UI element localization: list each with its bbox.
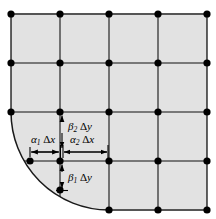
label-beta1-delta-y: β1 Δy [67,171,92,185]
grid-node [105,108,112,115]
grid-node [56,10,63,17]
grid-node [203,206,210,213]
label-beta2-delta-y: β2 Δy [67,120,92,134]
grid-diagram: α1 Δx α2 Δx β2 Δy β1 Δy [0,0,216,219]
grid-node [203,59,210,66]
figure-container: α1 Δx α2 Δx β2 Δy β1 Δy [0,0,216,219]
grid-node [154,206,161,213]
grid-node [56,59,63,66]
label-alpha1-delta-x: α1 Δx [31,133,55,147]
grid-node [105,206,112,213]
grid-node [7,108,14,115]
beta2-delta: Δ [80,120,87,132]
label-alpha2-delta-x: α2 Δx [70,133,94,147]
grid-node [154,10,161,17]
grid-node [154,59,161,66]
alpha1-delta: Δ [43,133,50,145]
grid-node [105,10,112,17]
grid-node [203,108,210,115]
grid-node [154,157,161,164]
alpha1-variable: x [49,133,55,145]
grid-node [105,157,112,164]
beta1-delta: Δ [80,171,87,183]
grid-node [105,59,112,66]
beta2-variable: y [86,120,92,132]
grid-node [203,10,210,17]
grid-node [7,59,14,66]
grid-node [56,108,63,115]
beta1-variable: y [86,171,92,183]
alpha2-delta: Δ [82,133,89,145]
boundary-node-horizontal [26,157,33,164]
grid-node [56,157,63,164]
alpha2-variable: x [88,133,94,145]
grid-node [7,10,14,17]
grid-node [154,108,161,115]
grid-node [203,157,210,164]
